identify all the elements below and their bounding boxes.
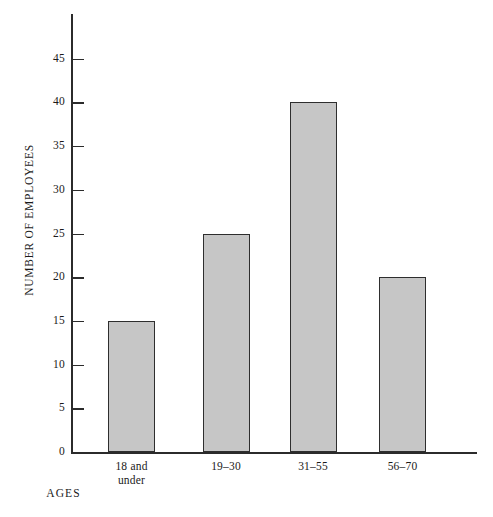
bar-19-30 xyxy=(203,234,250,453)
x-category-label-2: 31–55 xyxy=(268,459,358,473)
y-tick-label: 5 xyxy=(39,402,65,414)
x-category-label-line1: 18 and xyxy=(115,460,147,472)
x-category-label-line1: 56–70 xyxy=(388,460,418,472)
x-category-label-1: 19–30 xyxy=(181,459,271,473)
bar-18-and-under xyxy=(108,321,155,452)
y-tick-mark xyxy=(73,59,84,60)
y-tick-mark xyxy=(73,277,84,278)
x-category-label-line2: under xyxy=(87,473,177,487)
y-tick-mark xyxy=(73,146,84,147)
y-tick-mark xyxy=(73,190,84,191)
x-axis-line xyxy=(71,452,477,454)
y-tick-mark xyxy=(73,408,84,409)
x-axis-title-wrap: AGES xyxy=(0,487,493,499)
y-tick-label: 45 xyxy=(39,53,65,65)
y-tick-label: 25 xyxy=(39,228,65,240)
x-category-label-3: 56–70 xyxy=(358,459,448,473)
y-tick-mark xyxy=(73,452,84,453)
y-tick-label: 30 xyxy=(39,184,65,196)
y-tick-label: 40 xyxy=(39,96,65,108)
bar-31-55 xyxy=(290,102,337,452)
y-tick-label: 0 xyxy=(39,446,65,458)
y-tick-label: 10 xyxy=(39,359,65,371)
y-tick-label: 35 xyxy=(39,140,65,152)
y-tick-mark xyxy=(73,365,84,366)
x-axis-title: AGES xyxy=(46,487,80,499)
x-category-label-0: 18 and under xyxy=(87,459,177,487)
bar-56-70 xyxy=(379,277,426,452)
y-tick-mark xyxy=(73,234,84,235)
y-axis-title: NUMBER OF EMPLOYEES xyxy=(23,70,35,370)
y-tick-mark xyxy=(73,102,84,103)
x-category-label-line1: 31–55 xyxy=(298,460,328,472)
x-category-label-line1: 19–30 xyxy=(211,460,241,472)
y-tick-label: 20 xyxy=(39,271,65,283)
y-tick-mark xyxy=(73,321,84,322)
bar-chart: 0 5 10 15 20 25 30 35 40 45 NUMBER OF EM… xyxy=(0,0,493,517)
y-tick-label: 15 xyxy=(39,315,65,327)
